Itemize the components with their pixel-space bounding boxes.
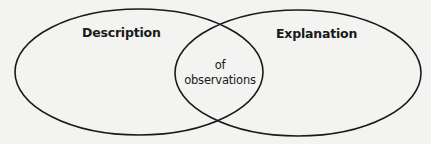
explanation-label: Explanation [276,28,357,41]
venn-diagram: Description Explanation of observations [0,0,431,144]
intersection-line-1: of [180,58,260,73]
intersection-line-2: observations [180,73,260,88]
description-label: Description [82,27,161,40]
intersection-label: of observations [180,58,260,88]
